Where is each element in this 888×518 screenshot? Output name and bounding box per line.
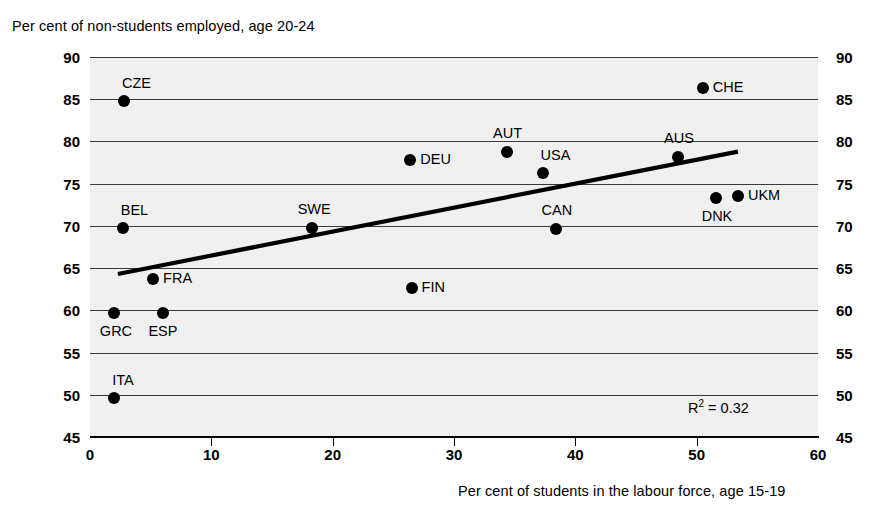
y-axis-tick-label: 75 xyxy=(836,177,872,192)
y-axis-title: Per cent of non-students employed, age 2… xyxy=(12,18,315,34)
x-axis-title: Per cent of students in the labour force… xyxy=(458,483,786,499)
data-point xyxy=(306,222,318,234)
gridline xyxy=(90,395,818,396)
gridline xyxy=(90,268,818,269)
r-squared-prefix: R xyxy=(688,400,698,416)
gridline xyxy=(90,57,818,58)
y-axis-tick-label: 65 xyxy=(836,261,872,276)
x-axis-tick-label: 60 xyxy=(798,447,838,462)
y-axis-tick-label: 50 xyxy=(44,388,80,403)
data-point xyxy=(117,222,129,234)
data-point-label: FIN xyxy=(422,280,445,295)
x-axis-tick-label: 30 xyxy=(434,447,474,462)
data-point xyxy=(406,282,418,294)
r-squared-annotation: R2 = 0.32 xyxy=(688,398,749,416)
y-axis-tick-label: 75 xyxy=(44,177,80,192)
r-squared-suffix: = 0.32 xyxy=(704,400,749,416)
y-axis-tick-label: 70 xyxy=(836,219,872,234)
x-axis-tick-label: 20 xyxy=(313,447,353,462)
gridline xyxy=(90,141,818,142)
x-axis-tick xyxy=(333,437,334,446)
data-point-label: SWE xyxy=(298,202,331,217)
data-point xyxy=(710,192,722,204)
y-axis-tick-label: 80 xyxy=(44,134,80,149)
y-axis-tick-label: 45 xyxy=(836,430,872,445)
y-axis-tick-label: 55 xyxy=(836,346,872,361)
data-point xyxy=(157,307,169,319)
y-axis-tick-label: 90 xyxy=(836,50,872,65)
plot-area xyxy=(90,57,818,437)
x-axis-tick-label: 10 xyxy=(191,447,231,462)
data-point-label: UKM xyxy=(748,188,780,203)
y-axis-tick-label: 60 xyxy=(836,303,872,318)
data-point xyxy=(501,146,513,158)
x-axis-tick xyxy=(211,437,212,446)
data-point-label: ESP xyxy=(148,324,177,339)
x-axis-tick-label: 50 xyxy=(677,447,717,462)
data-point-label: CHE xyxy=(713,80,744,95)
y-axis-tick-label: 85 xyxy=(836,92,872,107)
gridline xyxy=(90,99,818,100)
y-axis-tick-label: 90 xyxy=(44,50,80,65)
y-axis-tick-label: 45 xyxy=(44,430,80,445)
y-axis-tick-label: 65 xyxy=(44,261,80,276)
data-point-label: AUT xyxy=(493,126,522,141)
y-axis-tick-label: 50 xyxy=(836,388,872,403)
gridline xyxy=(90,226,818,227)
data-point xyxy=(697,82,709,94)
data-point-label: USA xyxy=(541,148,571,163)
gridline xyxy=(90,310,818,311)
x-axis-tick xyxy=(454,437,455,446)
y-axis-tick-label: 70 xyxy=(44,219,80,234)
data-point-label: GRC xyxy=(100,324,132,339)
data-point-label: AUS xyxy=(664,131,694,146)
y-axis-tick-label: 55 xyxy=(44,346,80,361)
x-axis-tick xyxy=(575,437,576,446)
y-axis-tick-label: 85 xyxy=(44,92,80,107)
gridline xyxy=(90,184,818,185)
x-axis-tick-label: 0 xyxy=(70,447,110,462)
x-axis-tick xyxy=(697,437,698,446)
data-point-label: CZE xyxy=(122,76,151,91)
data-point-label: BEL xyxy=(121,203,148,218)
y-axis-tick-label: 80 xyxy=(836,134,872,149)
y-axis-tick-label: 60 xyxy=(44,303,80,318)
data-point-label: CAN xyxy=(542,203,573,218)
data-point xyxy=(537,167,549,179)
data-point xyxy=(118,95,130,107)
data-point-label: ITA xyxy=(112,373,133,388)
gridline xyxy=(90,353,818,354)
x-axis-tick-label: 40 xyxy=(555,447,595,462)
data-point-label: DEU xyxy=(420,152,451,167)
data-point-label: FRA xyxy=(163,271,192,286)
data-point-label: DNK xyxy=(702,209,733,224)
scatter-chart: Per cent of non-students employed, age 2… xyxy=(0,0,888,518)
